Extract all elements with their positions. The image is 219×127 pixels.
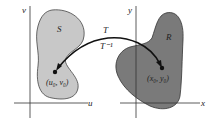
point-x0-y0-label: (x₀, y₀) bbox=[147, 74, 169, 83]
point-u0-v0-label: (u₀, v₀) bbox=[46, 78, 69, 87]
transformation-diagram: v u S (u₀, v₀) y x R (x₀, y₀) T T⁻¹ bbox=[0, 0, 219, 127]
region-s-label: S bbox=[57, 24, 62, 34]
y-axis-label: y bbox=[127, 5, 132, 15]
region-r-label: R bbox=[165, 32, 172, 42]
left-coordinate-plane: v u S (u₀, v₀) bbox=[14, 5, 93, 118]
inverse-map-label: T⁻¹ bbox=[100, 41, 113, 51]
v-axis-label: v bbox=[22, 5, 26, 15]
x-axis-label: x bbox=[200, 98, 205, 108]
u-axis-label: u bbox=[88, 98, 93, 108]
forward-map-label: T bbox=[103, 25, 109, 35]
region-r bbox=[116, 13, 183, 109]
